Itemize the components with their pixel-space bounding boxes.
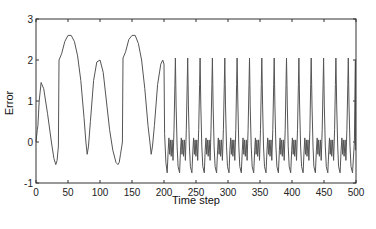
axis-ticks xyxy=(36,19,356,183)
y-tick-label: 2 xyxy=(27,55,33,66)
x-tick-label: 400 xyxy=(284,187,301,198)
x-tick-label: 200 xyxy=(156,187,173,198)
x-tick-label: 100 xyxy=(92,187,109,198)
y-tick-labels: -10123 xyxy=(24,14,33,189)
x-tick-label: 0 xyxy=(33,187,39,198)
y-axis-label: Error xyxy=(3,90,15,115)
x-tick-label: 450 xyxy=(316,187,333,198)
error-line-chart: 050100150200250300350400450500 -10123 Ti… xyxy=(0,0,376,229)
error-series-line xyxy=(36,35,355,172)
x-tick-label: 500 xyxy=(348,187,365,198)
x-axis-label: Time step xyxy=(172,194,220,206)
x-tick-label: 350 xyxy=(252,187,269,198)
y-tick-label: 0 xyxy=(27,137,33,148)
y-tick-label: 1 xyxy=(27,96,33,107)
x-tick-label: 300 xyxy=(220,187,237,198)
plot-frame xyxy=(36,19,356,183)
y-tick-label: 3 xyxy=(27,14,33,25)
x-tick-label: 50 xyxy=(62,187,74,198)
x-tick-label: 150 xyxy=(124,187,141,198)
y-tick-label: -1 xyxy=(24,178,33,189)
